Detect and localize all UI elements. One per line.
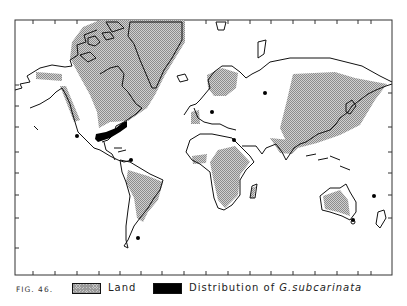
legend-label-land: Land	[108, 282, 136, 293]
legend-label-distribution: Distribution of G.subcarinata	[189, 282, 362, 293]
distribution-point	[263, 91, 267, 95]
distribution-point	[136, 236, 140, 240]
species-name: G.subcarinata	[279, 282, 362, 293]
distribution-point	[232, 138, 236, 142]
distribution-swatch	[153, 283, 182, 294]
legend: FIG. 46. Land Distribution of G.subcarin…	[0, 281, 407, 301]
distribution-point	[372, 194, 376, 198]
legend-distribution-prefix: Distribution of	[189, 282, 279, 293]
distribution-point	[351, 218, 355, 222]
land-swatch	[72, 283, 101, 294]
distribution-point	[129, 158, 133, 162]
world-map	[0, 0, 407, 306]
figure-label: FIG. 46.	[16, 285, 53, 294]
distribution-point	[210, 110, 214, 114]
distribution-point	[75, 134, 79, 138]
